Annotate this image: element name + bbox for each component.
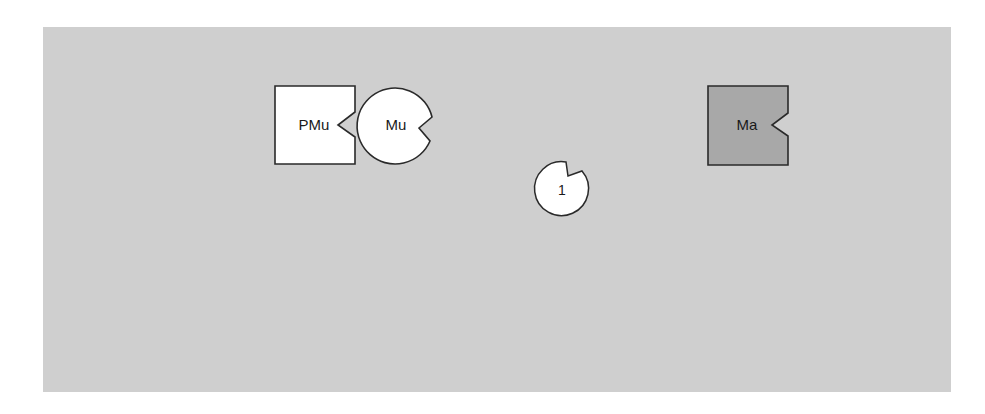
ma-label: Ma [737, 116, 758, 133]
pmu-label: PMu [299, 116, 330, 133]
one-label: 1 [558, 182, 566, 198]
one-shape: 1 [535, 162, 589, 216]
ma-shape: Ma [708, 86, 788, 165]
mu-shape: Mu [357, 88, 432, 164]
pmu-shape: PMu [275, 86, 355, 164]
diagram-canvas: PMu Mu 1 Ma [0, 0, 985, 414]
mu-label: Mu [386, 116, 407, 133]
